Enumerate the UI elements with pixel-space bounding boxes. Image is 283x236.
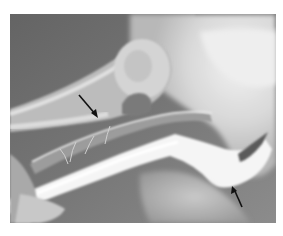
page bbox=[0, 0, 283, 236]
radiograph-image bbox=[10, 14, 276, 223]
femoral-head-inner bbox=[124, 50, 152, 82]
radiograph-figure bbox=[10, 14, 276, 223]
